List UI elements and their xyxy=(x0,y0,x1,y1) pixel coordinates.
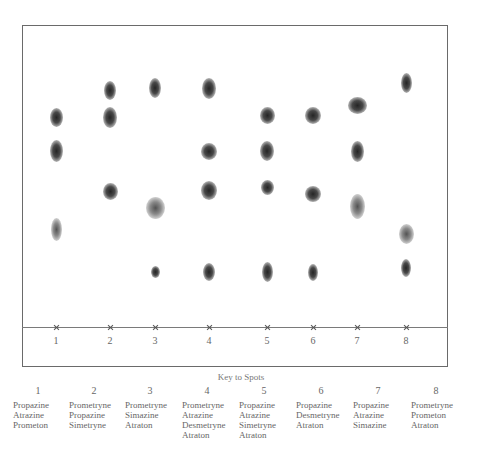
key-column-number: 1 xyxy=(13,386,63,396)
key-item: Atraton xyxy=(239,430,289,440)
spot-lane-1-1 xyxy=(50,108,63,127)
lane-label: 8 xyxy=(396,335,416,346)
spot-lane-6-2 xyxy=(305,186,321,202)
origin-mark-icon xyxy=(107,324,114,331)
spot-lane-8-2 xyxy=(399,224,414,244)
key-column-number: 3 xyxy=(125,386,175,396)
key-column-number: 5 xyxy=(239,386,289,396)
key-column-8: 8PrometrynePrometonAtraton xyxy=(411,386,461,430)
key-column-3: 3PrometryneSimazineAtraton xyxy=(125,386,175,430)
lane-label: 3 xyxy=(145,335,165,346)
key-item: Atrazine xyxy=(182,410,232,420)
origin-mark-icon xyxy=(206,324,213,331)
spot-lane-1-3 xyxy=(51,218,62,241)
key-column-number: 6 xyxy=(296,386,346,396)
lane-label: 7 xyxy=(347,335,367,346)
lane-label: 2 xyxy=(100,335,120,346)
key-item: Prometryne xyxy=(182,400,232,410)
key-item: Atraton xyxy=(411,420,461,430)
key-title: Key to Spots xyxy=(0,372,482,382)
key-item: Desmetryne xyxy=(296,410,346,420)
key-item: Atrazine xyxy=(239,410,289,420)
key-item: Desmetryne xyxy=(182,420,232,430)
origin-mark-icon xyxy=(310,324,317,331)
key-column-5: 5PropazineAtrazineSimetryneAtraton xyxy=(239,386,289,440)
spot-lane-5-4 xyxy=(262,262,273,282)
key-item: Prometryne xyxy=(411,400,461,410)
key-column-number: 8 xyxy=(411,386,461,396)
spot-lane-8-1 xyxy=(401,73,412,93)
spot-lane-4-1 xyxy=(202,78,216,99)
spot-lane-4-2 xyxy=(201,143,217,160)
key-item: Atrazine xyxy=(13,410,63,420)
spot-lane-8-3 xyxy=(401,259,411,277)
spot-lane-5-1 xyxy=(260,107,275,124)
spot-lane-5-2 xyxy=(260,141,274,161)
key-item: Simetryne xyxy=(239,420,289,430)
spot-lane-6-1 xyxy=(305,107,321,124)
key-item: Simetryne xyxy=(69,420,119,430)
spot-lane-7-1 xyxy=(348,97,367,114)
lane-label: 6 xyxy=(303,335,323,346)
key-column-4: 4PrometryneAtrazineDesmetryneAtraton xyxy=(182,386,232,440)
origin-mark-icon xyxy=(354,324,361,331)
key-item: Propazine xyxy=(353,400,403,410)
key-column-2: 2PrometrynePropazineSimetryne xyxy=(69,386,119,430)
key-item: Prometryne xyxy=(69,400,119,410)
spot-lane-6-3 xyxy=(308,264,318,281)
spot-lane-2-3 xyxy=(103,183,118,200)
key-item: Simazine xyxy=(353,420,403,430)
key-item: Atraton xyxy=(296,420,346,430)
spot-lane-1-2 xyxy=(50,140,63,162)
key-item: Propazine xyxy=(13,400,63,410)
key-column-7: 7PropazineAtrazineSimazine xyxy=(353,386,403,430)
key-item: Prometon xyxy=(411,410,461,420)
key-item: Prometon xyxy=(13,420,63,430)
origin-mark-icon xyxy=(53,324,60,331)
key-item: Propazine xyxy=(69,410,119,420)
spot-lane-7-3 xyxy=(350,194,365,219)
key-item: Propazine xyxy=(296,400,346,410)
spot-lane-2-1 xyxy=(104,81,116,100)
spot-lane-3-1 xyxy=(149,78,161,98)
key-item: Propazine xyxy=(239,400,289,410)
key-item: Simazine xyxy=(125,410,175,420)
spot-lane-3-3 xyxy=(151,266,160,278)
spot-lane-5-3 xyxy=(261,180,274,195)
spot-lane-3-2 xyxy=(146,197,165,219)
key-item: Atraton xyxy=(182,430,232,440)
origin-mark-icon xyxy=(403,324,410,331)
origin-mark-icon xyxy=(264,324,271,331)
key-item: Prometryne xyxy=(125,400,175,410)
key-item: Atraton xyxy=(125,420,175,430)
key-item: Atrazine xyxy=(353,410,403,420)
lane-label: 4 xyxy=(199,335,219,346)
spot-lane-4-4 xyxy=(203,263,215,281)
spot-lane-7-2 xyxy=(351,141,364,162)
origin-mark-icon xyxy=(152,324,159,331)
lane-label: 5 xyxy=(257,335,277,346)
lane-label: 1 xyxy=(46,335,66,346)
key-column-number: 2 xyxy=(69,386,119,396)
key-column-1: 1PropazineAtrazinePrometon xyxy=(13,386,63,430)
key-column-6: 6PropazineDesmetryneAtraton xyxy=(296,386,346,430)
origin-line xyxy=(22,327,448,328)
key-column-number: 7 xyxy=(353,386,403,396)
tlc-plate-frame xyxy=(22,25,448,367)
key-column-number: 4 xyxy=(182,386,232,396)
spot-lane-4-3 xyxy=(201,181,217,200)
spot-lane-2-2 xyxy=(103,107,117,128)
